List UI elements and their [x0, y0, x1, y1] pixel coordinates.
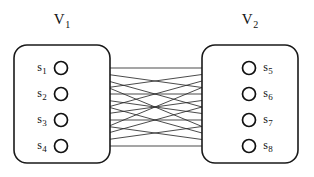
set-title-v2-subscript: 2	[253, 19, 258, 30]
node-s2	[55, 88, 68, 101]
node-label-subscript-s5: 5	[268, 66, 273, 76]
node-s1	[55, 62, 68, 75]
diagram-canvas: s1s2s3s4s5s6s7s8 V1V2	[0, 0, 314, 177]
node-label-subscript-s3: 3	[42, 118, 47, 128]
node-label-subscript-s8: 8	[268, 144, 273, 154]
node-label-subscript-s1: 1	[42, 66, 47, 76]
set-title-v1: V1	[54, 11, 70, 30]
node-label-subscript-s4: 4	[42, 144, 47, 154]
node-s4	[55, 140, 68, 153]
node-label-subscript-s7: 7	[268, 118, 273, 128]
set-titles-group: V1V2	[54, 11, 258, 30]
node-s6	[243, 88, 256, 101]
node-s3	[55, 114, 68, 127]
node-label-subscript-s6: 6	[268, 92, 273, 102]
node-s7	[243, 114, 256, 127]
node-s8	[243, 140, 256, 153]
node-label-subscript-s2: 2	[42, 92, 47, 102]
set-title-v1-subscript: 1	[65, 19, 70, 30]
bipartite-graph-figure: s1s2s3s4s5s6s7s8 V1V2	[0, 0, 314, 177]
set-title-v2: V2	[242, 11, 258, 30]
node-s5	[243, 62, 256, 75]
